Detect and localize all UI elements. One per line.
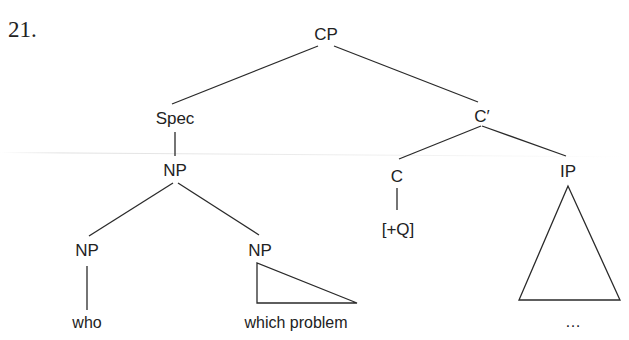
leaf-who: who: [72, 315, 101, 331]
node-spec-np: NP: [163, 162, 187, 179]
node-np-right: NP: [248, 242, 272, 259]
edge-cp-cbar: [334, 46, 478, 102]
example-number: 21.: [8, 18, 37, 41]
edge-np-npleft: [89, 183, 173, 236]
node-ip: IP: [560, 163, 576, 180]
edge-cbar-ip: [482, 126, 566, 156]
triangle-ip: [519, 186, 620, 300]
node-c-feature: [+Q]: [382, 221, 415, 238]
node-cp: CP: [314, 26, 338, 43]
edge-cp-spec: [172, 46, 318, 104]
edge-cbar-c: [399, 126, 481, 159]
node-c-bar: C′: [474, 108, 489, 125]
edge-np-npright: [178, 183, 259, 235]
node-np-left: NP: [75, 242, 99, 259]
leaf-which-problem: which problem: [244, 315, 347, 331]
triangle-np-right: [257, 263, 357, 303]
syntax-tree-figure: 21. CP Spec NP NP who NP which problem C…: [0, 0, 629, 340]
tree-edges: [0, 0, 629, 340]
node-c-head: C: [391, 168, 403, 185]
node-spec: Spec: [156, 110, 195, 127]
leaf-ip-ellipsis: …: [565, 314, 581, 330]
